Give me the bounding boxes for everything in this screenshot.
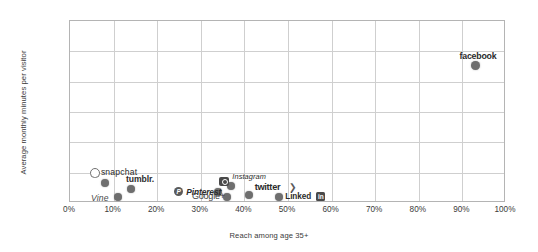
data-point-labels: snapchatVinetumblr.PPinterestGoogle+Inst… <box>70 21 504 39</box>
gridline-vertical <box>375 21 376 201</box>
data-point-vine[interactable] <box>114 193 122 201</box>
data-point-facebook[interactable] <box>471 61 480 70</box>
data-point-twitter[interactable] <box>245 191 253 199</box>
pinterest-p-icon: P <box>174 187 183 196</box>
label-instagram: Instagram <box>232 173 266 180</box>
data-point-linkedin[interactable] <box>275 193 283 201</box>
x-tick-label: 90% <box>439 205 483 214</box>
linkedin-in-icon: in <box>316 192 325 201</box>
label-google-plus: Google+ <box>192 192 225 201</box>
instagram-camera-icon <box>219 177 229 186</box>
gridline-horizontal <box>70 112 504 113</box>
data-point-snapchat[interactable] <box>101 179 109 187</box>
gridline-vertical <box>288 21 289 201</box>
x-tick-label: 20% <box>134 205 178 214</box>
twitter-bird-icon: ❯ <box>289 183 297 192</box>
gridline-vertical <box>462 21 463 201</box>
x-tick-label: 100% <box>483 205 527 214</box>
snapchat-ghost-icon <box>90 168 100 178</box>
x-tick-label: 0% <box>47 205 91 214</box>
gridline-horizontal <box>70 51 504 52</box>
gridline-vertical <box>332 21 333 201</box>
plot-area: snapchatVinetumblr.PPinterestGoogle+Inst… <box>69 20 505 202</box>
x-tick-label: 10% <box>91 205 135 214</box>
x-tick-label: 80% <box>396 205 440 214</box>
x-tick-label: 30% <box>178 205 222 214</box>
x-tick-label: 40% <box>221 205 265 214</box>
x-tick-label: 60% <box>309 205 353 214</box>
x-axis-title: Reach among age 35+ <box>0 231 538 240</box>
x-tick-label: 50% <box>265 205 309 214</box>
gridline-horizontal <box>70 82 504 83</box>
label-facebook: facebook <box>459 52 496 61</box>
gridline-vertical <box>419 21 420 201</box>
label-linkedin: Linked <box>285 193 311 201</box>
gridline-vertical <box>157 21 158 201</box>
label-vine: Vine <box>91 194 109 203</box>
gridline-horizontal <box>70 142 504 143</box>
x-tick-label: 70% <box>352 205 396 214</box>
scatter-chart: Average monthly minutes per visitor Reac… <box>0 0 538 252</box>
y-axis-title: Average monthly minutes per visitor <box>19 28 28 198</box>
data-point-tumblr[interactable] <box>127 185 135 193</box>
gridline-vertical <box>201 21 202 201</box>
label-tumblr: tumblr. <box>126 175 154 184</box>
label-twitter: twitter <box>255 183 280 192</box>
